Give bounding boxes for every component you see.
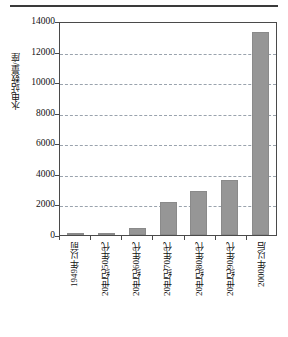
y-axis-title: 水电站数量/座 xyxy=(8,22,24,142)
x-tick-slot xyxy=(90,236,121,240)
x-axis-tickmarks xyxy=(59,236,277,240)
bar-slot xyxy=(214,23,245,235)
chart-figure: 水电站数量/座 02000400060008000100001200014000… xyxy=(0,0,288,337)
x-axis-tick-labels: 1949年以前20世纪50年代20世纪60年代20世纪70年代20世纪80年代2… xyxy=(59,242,277,334)
y-tickmark xyxy=(55,22,59,23)
y-tickmark xyxy=(55,83,59,84)
x-tickmark xyxy=(90,236,91,240)
bar xyxy=(98,233,115,235)
y-tick-label: 4000 xyxy=(36,170,55,180)
x-label-slot: 20世纪90年代 xyxy=(215,242,246,334)
x-tickmark xyxy=(246,236,247,240)
x-tick-slot xyxy=(246,236,277,240)
x-label-slot: 2000年以后 xyxy=(246,242,277,334)
bar-series xyxy=(60,23,276,235)
y-tickmark xyxy=(55,205,59,206)
bar xyxy=(160,202,177,235)
y-tick-label: 14000 xyxy=(31,17,55,27)
x-label-slot: 20世纪50年代 xyxy=(90,242,121,334)
bar xyxy=(67,233,84,235)
y-tickmark xyxy=(55,236,59,237)
x-tickmark xyxy=(152,236,153,240)
x-tick-slot xyxy=(215,236,246,240)
x-tick-label: 1949年以前 xyxy=(70,242,79,287)
x-tick-slot xyxy=(184,236,215,240)
bar-slot xyxy=(60,23,91,235)
y-tickmark xyxy=(55,114,59,115)
x-label-slot: 1949年以前 xyxy=(59,242,90,334)
x-tick-label: 20世纪60年代 xyxy=(132,242,141,296)
y-tickmark xyxy=(55,144,59,145)
x-tick-label: 20世纪50年代 xyxy=(101,242,110,296)
x-tickmark xyxy=(121,236,122,240)
y-tick-label: 10000 xyxy=(31,78,55,88)
bar xyxy=(190,191,207,235)
x-tick-label: 20世纪70年代 xyxy=(163,242,172,296)
y-axis-tick-labels: 02000400060008000100001200014000 xyxy=(24,16,57,240)
y-tickmark xyxy=(55,175,59,176)
x-label-slot: 20世纪60年代 xyxy=(121,242,152,334)
bar xyxy=(129,228,146,235)
x-label-slot: 20世纪80年代 xyxy=(184,242,215,334)
bar-slot xyxy=(183,23,214,235)
x-tick-slot xyxy=(59,236,90,240)
x-tick-slot xyxy=(121,236,152,240)
bar-slot xyxy=(153,23,184,235)
bar-slot xyxy=(91,23,122,235)
y-tick-label: 6000 xyxy=(36,140,55,150)
bar-slot xyxy=(122,23,153,235)
header-divider xyxy=(10,5,278,7)
x-tick-label: 20世纪80年代 xyxy=(195,242,204,296)
x-tick-label: 20世纪90年代 xyxy=(226,242,235,296)
y-tick-label: 2000 xyxy=(36,201,55,211)
plot-area xyxy=(59,22,277,236)
bar xyxy=(221,180,238,235)
y-tick-label: 8000 xyxy=(36,109,55,119)
x-tick-label: 2000年以后 xyxy=(257,242,266,287)
bar xyxy=(252,32,269,235)
x-tick-slot xyxy=(152,236,183,240)
bar-slot xyxy=(245,23,276,235)
y-tick-label: 12000 xyxy=(31,48,55,58)
y-tickmark xyxy=(55,53,59,54)
x-tickmark xyxy=(59,236,60,240)
x-tickmark xyxy=(184,236,185,240)
x-label-slot: 20世纪70年代 xyxy=(152,242,183,334)
x-tickmark xyxy=(215,236,216,240)
